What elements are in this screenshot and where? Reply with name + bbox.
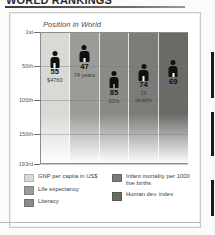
figure-page: WORLD RANKINGS Position in World 1st50th… [0,0,215,235]
legend-swatch [24,186,34,195]
scan-mark-mid [211,112,214,156]
gridline-150th [40,134,188,135]
axis-tick-100th [34,100,40,101]
person-head-icon [82,45,87,50]
axis-y-labels: 1st50th100th150th193rd [10,32,33,164]
axis-label-150th: 150th [9,131,33,137]
axis-top-line [40,32,188,33]
legend-column-right: Infant mortality per 1000 live birthsHum… [112,173,192,204]
axis-tick-1st [34,32,40,33]
person-head-icon [111,71,116,76]
person-body-icon [80,51,90,62]
headline-rule [5,6,185,8]
data-value-label: 74 [139,81,147,89]
chart-column-5 [159,32,188,164]
axis-label-193rd: 193rd [9,161,33,167]
person-icon [108,71,121,88]
person-head-icon [171,60,176,65]
person-icon [78,45,91,62]
data-detail-label: 19 deaths [132,90,156,103]
person-icon [167,60,180,77]
person-body-icon [50,57,60,68]
axis-tick-150th [34,134,40,135]
page-rule [0,222,200,223]
legend-swatch [24,199,34,208]
legend-label: Infant mortality per 1000 live births [126,173,192,188]
data-value-label: 55 [51,68,59,76]
legend-swatch [112,192,122,201]
legend-label: Human dev. index [126,191,173,198]
chart-panel: Position in World 1st50th100th150th193rd… [9,12,201,228]
person-body-icon [168,66,178,77]
axis-label-50th: 50th [9,63,33,69]
person-body-icon [139,70,149,81]
legend-item-right-1[interactable]: Infant mortality per 1000 live births [112,173,192,188]
legend-swatch [112,174,122,183]
data-value-label: 69 [169,78,177,86]
data-value-label: 47 [80,63,88,71]
scan-mark-bottom [211,180,214,216]
axis-tick-50th [34,66,40,67]
person-head-icon [52,51,57,56]
data-detail-label: 74 years [73,72,97,78]
legend-column-left: GNP per capita in US$Life expectancyLite… [24,173,108,211]
legend-label: Literacy [38,198,59,205]
data-detail-label: 93% [102,98,126,104]
person-icon [48,51,61,68]
legend-item-right-2[interactable]: Human dev. index [112,191,192,200]
person-icon [137,64,150,81]
data-detail-label: $4760 [43,77,67,83]
person-head-icon [141,64,146,69]
legend-item-left-1[interactable]: GNP per capita in US$ [24,173,108,182]
legend-item-left-3[interactable]: Literacy [24,198,108,207]
axis-tick-193rd [34,164,40,165]
legend-item-left-2[interactable]: Life expectancy [24,186,108,195]
scan-mark-top [211,52,214,98]
legend-swatch [24,174,34,183]
chart-subtitle: Position in World [43,20,101,29]
axis-y-line [40,32,41,164]
chart-legend: GNP per capita in US$Life expectancyLite… [24,173,190,215]
person-body-icon [109,77,119,88]
article-headline: WORLD RANKINGS [6,0,182,5]
axis-label-100th: 100th [9,97,33,103]
gridline-193rd [40,164,188,165]
legend-label: Life expectancy [38,186,79,193]
data-value-label: 85 [110,89,118,97]
legend-label: GNP per capita in US$ [38,173,98,180]
axis-label-1st: 1st [9,29,33,35]
